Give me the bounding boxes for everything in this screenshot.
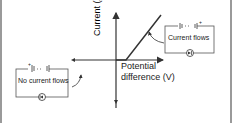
x-axis-label: Potential difference (V): [121, 61, 175, 83]
curved-arrow-icon: [149, 32, 164, 43]
iv-characteristic-line: [116, 15, 161, 60]
x-axis-label-line2: difference (V): [121, 72, 175, 83]
x-axis-label-line1: Potential: [121, 61, 175, 72]
current-flows-label: Current flows: [168, 34, 209, 41]
svg-text:+: +: [28, 61, 31, 67]
svg-text:+: +: [199, 19, 202, 25]
no-current-flows-label: No current flows: [18, 77, 69, 84]
diagram-graphics: + +: [0, 0, 232, 123]
x-axis-left-arrow: [71, 58, 75, 62]
diode-iv-diagram: + + Current (A): [0, 0, 232, 123]
y-axis-down-arrow: [114, 100, 118, 104]
y-axis-label: Current (A): [92, 0, 102, 36]
curved-arrow-icon: [72, 75, 81, 87]
